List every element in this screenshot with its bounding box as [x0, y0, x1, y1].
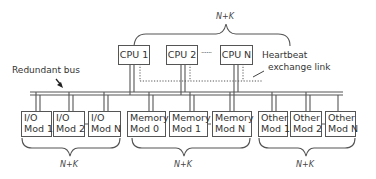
cpu-2-box: CPU 2 [166, 45, 198, 65]
io-module-1-line1: I/O [24, 113, 51, 124]
other-brace [259, 138, 355, 156]
memory-module-0: Memory Mod 0 [127, 111, 166, 137]
redundant-bus [30, 92, 343, 95]
heartbeat-label-line2: exchange link [268, 62, 330, 72]
memory-module-0-line2: Mod 0 [130, 124, 165, 135]
cpu-1-box: CPU 1 [118, 45, 150, 65]
io-module-1-line2: Mod 1 [24, 124, 51, 135]
other-module-2: Other Mod 2 [290, 111, 322, 137]
other-group-count-label: N+K [296, 160, 314, 169]
other-module-n-line1: Other [328, 113, 355, 124]
other-module-1: Other Mod 1 [258, 111, 288, 137]
memory-group-count-label: N+K [174, 160, 192, 169]
memory-module-1-line1: Memory [172, 113, 207, 124]
cpu-group-count-label: N+K [216, 12, 234, 21]
io-brace [22, 138, 120, 156]
other-module-n: Other Mod N [325, 111, 356, 137]
memory-module-1: Memory Mod 1 [169, 111, 208, 137]
memory-module-n-line2: Mod N [215, 124, 251, 135]
cpu-bus-connectors [130, 64, 238, 95]
io-module-2-line2: Mod 2 [56, 124, 84, 135]
memory-module-n: Memory Mod N [212, 111, 252, 137]
memory-brace [132, 138, 250, 156]
bus-arrow [56, 79, 63, 88]
redundant-bus-label: Redundant bus [12, 65, 80, 75]
io-module-2-line1: I/O [56, 113, 84, 124]
heartbeat-leader [253, 71, 264, 77]
heartbeat-label-line1: Heartbeat [262, 50, 307, 60]
io-group-count-label: N+K [60, 160, 78, 169]
memory-module-n-line1: Memory [215, 113, 251, 124]
other-module-1-line2: Mod 1 [261, 124, 287, 135]
heartbeat-drops [140, 64, 243, 81]
redundant-architecture-diagram: N+K CPU 1 CPU 2 ...... CPU N Heartbeat e… [0, 0, 376, 179]
other-module-n-line2: Mod N [328, 124, 355, 135]
top-brace [134, 24, 290, 48]
memory-module-1-line2: Mod 1 [172, 124, 207, 135]
io-module-2: I/O Mod 2 [53, 111, 85, 137]
other-module-2-line1: Other [293, 113, 321, 124]
io-module-1: I/O Mod 1 [21, 111, 52, 137]
cpu-ellipsis: ...... [201, 47, 211, 55]
io-module-n-line1: I/O [91, 113, 120, 124]
memory-module-0-line1: Memory [130, 113, 165, 124]
other-module-2-line2: Mod 2 [293, 124, 321, 135]
io-module-n-line2: Mod N [91, 124, 120, 135]
cpu-n-box: CPU N [220, 45, 253, 65]
io-module-n: I/O Mod N [88, 111, 121, 137]
diagram-connectors [0, 0, 376, 179]
other-module-1-line1: Other [261, 113, 287, 124]
